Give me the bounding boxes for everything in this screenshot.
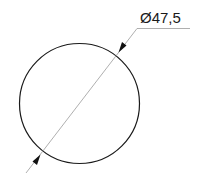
diameter-label: Ø47,5 (140, 9, 181, 26)
technical-drawing: Ø47,5 (0, 0, 199, 190)
